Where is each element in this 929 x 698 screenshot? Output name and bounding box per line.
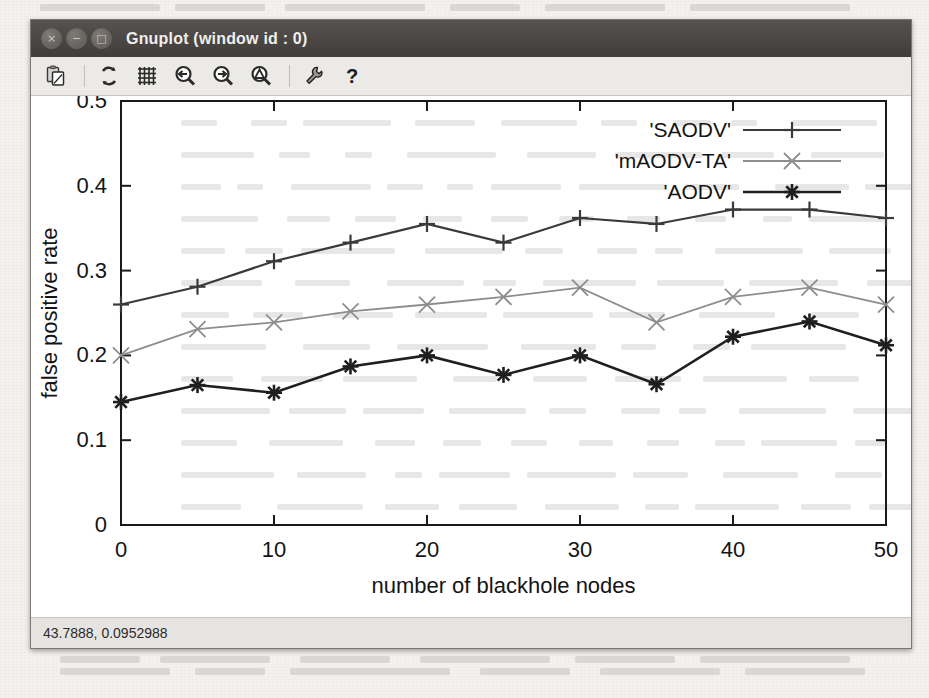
ghost-word	[289, 408, 346, 414]
plot-canvas[interactable]: 00.10.20.30.40.501020304050number of bla…	[31, 96, 911, 617]
ghost-word	[867, 280, 911, 286]
legend-label: 'mAODV-TA'	[615, 149, 731, 172]
scanned-page: × − □ Gnuplot (window id : 0)	[0, 0, 929, 698]
ghost-word	[621, 344, 656, 350]
ghost-word	[869, 504, 911, 510]
ghost-word	[715, 440, 745, 446]
ghost-word	[443, 440, 481, 446]
minimize-icon[interactable]: −	[66, 28, 87, 49]
ghost-word	[645, 504, 679, 510]
ghost-word	[423, 216, 462, 222]
ghost-word	[751, 344, 846, 350]
ghost-word	[181, 216, 258, 222]
ghost-word	[791, 120, 877, 126]
y-axis-tick-label: 0.3	[76, 258, 107, 283]
ghost-word	[181, 312, 229, 318]
ghost-word	[181, 504, 241, 510]
previous-zoom-icon[interactable]	[168, 61, 202, 91]
ghost-word	[295, 280, 350, 286]
ghost-word	[835, 472, 882, 478]
maximize-icon[interactable]: □	[91, 28, 112, 49]
page-text-line	[160, 656, 270, 663]
ghost-word	[621, 408, 660, 414]
ghost-word	[407, 152, 496, 158]
ghost-word	[679, 408, 706, 414]
svg-text:?: ?	[346, 65, 358, 87]
ghost-word	[525, 248, 563, 254]
ghost-word	[749, 280, 838, 286]
ghost-word	[303, 344, 370, 350]
ghost-word	[703, 376, 787, 382]
gnuplot-window: × − □ Gnuplot (window id : 0)	[30, 19, 912, 649]
ghost-word	[181, 344, 266, 350]
ghost-word	[647, 440, 679, 446]
ghost-word	[449, 408, 526, 414]
ghost-word	[279, 152, 310, 158]
ghost-word	[269, 440, 343, 446]
ghost-word	[181, 120, 217, 126]
ghost-word	[657, 280, 724, 286]
ghost-word	[425, 248, 503, 254]
help-icon[interactable]: ?	[335, 61, 369, 91]
y-axis-tick-label: 0.1	[76, 427, 107, 452]
ghost-word	[181, 184, 221, 190]
series-3	[113, 313, 894, 410]
next-zoom-icon[interactable]	[206, 61, 240, 91]
ghost-word	[829, 248, 891, 254]
copy-to-clipboard-icon[interactable]	[39, 61, 73, 91]
ghost-word	[251, 120, 287, 126]
ghost-word	[491, 216, 528, 222]
ghost-word	[695, 504, 779, 510]
ghost-word	[397, 344, 488, 350]
ghost-word	[245, 248, 283, 254]
ghost-word	[545, 504, 619, 510]
ghost-word	[287, 216, 330, 222]
ghost-word	[483, 280, 516, 286]
page-text-line	[195, 668, 265, 675]
status-bar: 43.7888, 0.0952988	[31, 617, 911, 648]
toolbar-separator	[289, 65, 290, 87]
ghost-word	[549, 408, 586, 414]
ghost-word	[459, 504, 517, 510]
x-axis-tick-label: 0	[115, 537, 127, 562]
page-text-line	[300, 656, 390, 663]
ghost-word	[355, 216, 396, 222]
ghost-word	[715, 248, 803, 254]
ghost-word	[363, 408, 424, 414]
ghost-word	[387, 280, 464, 286]
ghost-word	[699, 312, 775, 318]
page-text-line	[290, 668, 450, 675]
ghost-word	[811, 312, 859, 318]
page-text-line	[700, 656, 850, 663]
settings-icon[interactable]	[297, 61, 331, 91]
close-icon[interactable]: ×	[41, 28, 62, 49]
ghost-word	[181, 248, 225, 254]
gnuplot-chart: 00.10.20.30.40.501020304050number of bla…	[31, 96, 911, 617]
ghost-word	[801, 504, 851, 510]
ghost-word	[387, 184, 423, 190]
window-titlebar[interactable]: × − □ Gnuplot (window id : 0)	[31, 20, 911, 57]
autoscale-icon[interactable]	[244, 61, 278, 91]
ghost-word	[181, 472, 274, 478]
ghost-word	[811, 152, 884, 158]
page-text-line	[175, 4, 265, 11]
page-text-line	[60, 656, 140, 663]
toggle-grid-icon[interactable]	[130, 61, 164, 91]
replot-icon[interactable]	[92, 61, 126, 91]
page-text-line	[545, 4, 665, 11]
ghost-word	[385, 504, 439, 510]
page-text-line	[690, 4, 850, 11]
x-axis-tick-label: 40	[721, 537, 745, 562]
series-2	[113, 280, 894, 364]
page-text-line	[450, 4, 520, 11]
ghost-word	[375, 440, 415, 446]
ghost-word	[853, 408, 911, 414]
cursor-coordinates: 43.7888, 0.0952988	[43, 625, 168, 641]
ghost-word	[865, 184, 911, 190]
page-text-line	[40, 4, 160, 11]
x-axis-tick-label: 50	[874, 537, 898, 562]
ghost-word	[579, 440, 613, 446]
ghost-word	[303, 120, 391, 126]
ghost-word	[181, 408, 270, 414]
ghost-word	[439, 472, 510, 478]
